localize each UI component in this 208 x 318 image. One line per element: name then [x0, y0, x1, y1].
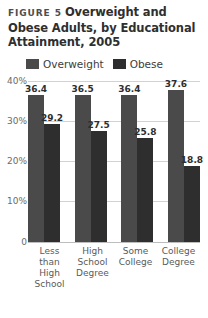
- page-title: FIGURE 5Overweight and Obese Adults, by …: [8, 5, 200, 50]
- chart-plot-area: 010%20%30%40% 36.429.236.527.536.425.837…: [0, 74, 208, 269]
- chart-legend: Overweight Obese: [0, 50, 208, 70]
- bar-value-label: 37.6: [165, 79, 187, 89]
- bar-overweight: 37.6: [168, 90, 184, 241]
- bar-obese: 25.8: [137, 138, 153, 242]
- figure-title-block: FIGURE 5Overweight and Obese Adults, by …: [0, 0, 208, 50]
- bar-group: 36.429.2: [28, 74, 60, 242]
- bar-value-label: 36.5: [72, 84, 94, 94]
- chart-bars: 36.429.236.527.536.425.837.618.8: [28, 74, 200, 242]
- legend-swatch-overweight: [26, 59, 39, 69]
- figure-number-label: FIGURE 5: [8, 8, 62, 18]
- y-axis-tick-label: 0: [21, 237, 27, 247]
- bar-group: 36.425.8: [121, 74, 153, 242]
- y-axis-tick-label: 10%: [7, 196, 27, 206]
- bar-group: 36.527.5: [75, 74, 107, 242]
- bar-obese: 18.8: [184, 166, 200, 242]
- bar-obese: 27.5: [91, 131, 107, 242]
- y-axis-tick-label: 30%: [7, 116, 27, 126]
- bar-value-label: 18.8: [181, 155, 203, 165]
- bar-overweight: 36.5: [75, 95, 91, 242]
- chart-category-labels: Less thanHighSchoolHighSchoolDegreeSomeC…: [28, 246, 200, 290]
- bar-value-label: 27.5: [88, 120, 110, 130]
- bar-value-label: 29.2: [41, 113, 63, 123]
- legend-item-obese: Obese: [113, 59, 163, 70]
- category-label: Less thanHighSchool: [28, 246, 71, 290]
- bar-overweight: 36.4: [121, 95, 137, 242]
- y-axis-tick-label: 20%: [7, 156, 27, 166]
- legend-item-overweight: Overweight: [26, 59, 104, 70]
- bar-group: 37.618.8: [168, 74, 200, 242]
- category-label: HighSchoolDegree: [71, 246, 114, 290]
- category-label: CollegeDegree: [157, 246, 200, 290]
- legend-label-obese: Obese: [130, 59, 163, 70]
- legend-swatch-obese: [113, 59, 126, 69]
- legend-label-overweight: Overweight: [43, 59, 104, 70]
- bar-value-label: 36.4: [25, 84, 47, 94]
- bar-obese: 29.2: [44, 124, 60, 242]
- x-axis-baseline: [28, 242, 200, 243]
- category-label: SomeCollege: [114, 246, 157, 290]
- bar-value-label: 36.4: [118, 84, 140, 94]
- figure-container: FIGURE 5Overweight and Obese Adults, by …: [0, 0, 208, 318]
- bar-value-label: 25.8: [134, 127, 156, 137]
